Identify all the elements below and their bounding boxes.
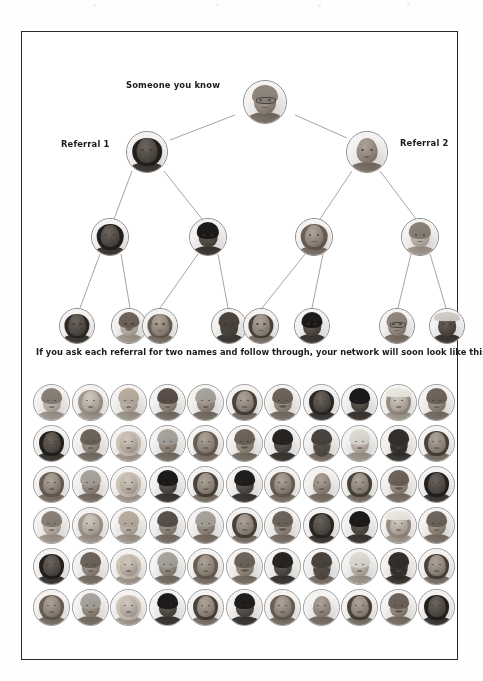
- portrait-grain: [227, 426, 262, 461]
- grid-portrait[interactable]: [187, 589, 224, 626]
- grid-portrait[interactable]: [226, 589, 263, 626]
- grid-portrait[interactable]: [33, 507, 70, 544]
- tree-node-leaf-7[interactable]: [379, 308, 415, 344]
- portrait-grain: [402, 219, 438, 255]
- grid-portrait[interactable]: [72, 384, 109, 421]
- grid-portrait[interactable]: [149, 425, 186, 462]
- grid-portrait[interactable]: [187, 466, 224, 503]
- grid-portrait[interactable]: [264, 466, 301, 503]
- grid-portrait[interactable]: [110, 507, 147, 544]
- tree-node-level3-1[interactable]: [91, 218, 129, 256]
- grid-portrait[interactable]: [264, 548, 301, 585]
- grid-portrait[interactable]: [72, 548, 109, 585]
- portrait-grain: [244, 309, 278, 343]
- grid-portrait[interactable]: [341, 425, 378, 462]
- grid-portrait[interactable]: [33, 425, 70, 462]
- grid-portrait[interactable]: [303, 466, 340, 503]
- portrait-grain: [111, 426, 146, 461]
- grid-portrait[interactable]: [418, 507, 455, 544]
- grid-portrait[interactable]: [226, 548, 263, 585]
- grid-portrait[interactable]: [110, 548, 147, 585]
- portrait-grain: [150, 385, 185, 420]
- grid-portrait[interactable]: [33, 589, 70, 626]
- tree-node-leaf-3[interactable]: [142, 308, 178, 344]
- tree-node-level3-3[interactable]: [295, 218, 333, 256]
- grid-portrait[interactable]: [264, 384, 301, 421]
- grid-portrait[interactable]: [33, 384, 70, 421]
- grid-portrait[interactable]: [72, 507, 109, 544]
- tree-node-level3-2[interactable]: [189, 218, 227, 256]
- grid-portrait[interactable]: [187, 384, 224, 421]
- tree-node-leaf-5[interactable]: [243, 308, 279, 344]
- portrait-grain: [342, 549, 377, 584]
- portrait-man-white-hair: [342, 549, 377, 584]
- portrait-grain: [296, 219, 332, 255]
- grid-portrait[interactable]: [418, 589, 455, 626]
- grid-portrait[interactable]: [264, 425, 301, 462]
- grid-portrait[interactable]: [303, 507, 340, 544]
- grid-portrait[interactable]: [72, 589, 109, 626]
- grid-portrait[interactable]: [33, 466, 70, 503]
- portrait-woman-dark-hair: [92, 219, 128, 255]
- grid-portrait[interactable]: [303, 548, 340, 585]
- grid-portrait[interactable]: [380, 507, 417, 544]
- grid-portrait[interactable]: [264, 507, 301, 544]
- grid-portrait[interactable]: [380, 548, 417, 585]
- grid-portrait[interactable]: [341, 466, 378, 503]
- tree-node-referral-1[interactable]: [126, 131, 168, 173]
- grid-portrait[interactable]: [418, 466, 455, 503]
- grid-portrait[interactable]: [380, 425, 417, 462]
- tree-node-root[interactable]: [243, 80, 287, 124]
- grid-portrait[interactable]: [149, 548, 186, 585]
- tree-node-referral-2[interactable]: [346, 131, 388, 173]
- portrait-woman-long-hair: [419, 426, 454, 461]
- grid-portrait[interactable]: [226, 425, 263, 462]
- portrait-man-beard: [304, 426, 339, 461]
- grid-portrait[interactable]: [33, 548, 70, 585]
- tree-node-leaf-6[interactable]: [294, 308, 330, 344]
- grid-portrait[interactable]: [149, 466, 186, 503]
- grid-portrait[interactable]: [149, 384, 186, 421]
- grid-portrait[interactable]: [110, 589, 147, 626]
- portrait-woman-smiling: [296, 219, 332, 255]
- grid-portrait[interactable]: [418, 548, 455, 585]
- grid-portrait[interactable]: [303, 384, 340, 421]
- grid-portrait[interactable]: [303, 425, 340, 462]
- tree-node-leaf-8[interactable]: [429, 308, 465, 344]
- grid-portrait[interactable]: [264, 589, 301, 626]
- portrait-woman-long-hair: [188, 467, 223, 502]
- grid-portrait[interactable]: [418, 384, 455, 421]
- grid-portrait[interactable]: [380, 466, 417, 503]
- grid-portrait[interactable]: [187, 425, 224, 462]
- tree-node-leaf-4[interactable]: [211, 308, 247, 344]
- grid-portrait[interactable]: [226, 384, 263, 421]
- portrait-man-grey: [188, 385, 223, 420]
- portrait-woman-hat: [381, 508, 416, 543]
- grid-portrait[interactable]: [187, 507, 224, 544]
- grid-portrait[interactable]: [226, 466, 263, 503]
- grid-portrait[interactable]: [418, 425, 455, 462]
- grid-portrait[interactable]: [149, 507, 186, 544]
- grid-portrait[interactable]: [341, 589, 378, 626]
- grid-portrait[interactable]: [149, 589, 186, 626]
- portrait-man-beard: [304, 549, 339, 584]
- grid-portrait[interactable]: [187, 548, 224, 585]
- grid-portrait[interactable]: [72, 425, 109, 462]
- grid-portrait[interactable]: [110, 384, 147, 421]
- grid-portrait[interactable]: [380, 384, 417, 421]
- tree-node-leaf-1[interactable]: [59, 308, 95, 344]
- grid-portrait[interactable]: [303, 589, 340, 626]
- illustration-frame: Someone you know Referral 1 Referral 2: [21, 31, 458, 660]
- grid-portrait[interactable]: [226, 507, 263, 544]
- tree-node-level3-4[interactable]: [401, 218, 439, 256]
- portrait-grain: [34, 467, 69, 502]
- grid-portrait[interactable]: [110, 466, 147, 503]
- grid-portrait[interactable]: [341, 384, 378, 421]
- grid-portrait[interactable]: [341, 548, 378, 585]
- grid-portrait[interactable]: [110, 425, 147, 462]
- grid-portrait[interactable]: [380, 589, 417, 626]
- grid-portrait[interactable]: [341, 507, 378, 544]
- grid-portrait[interactable]: [72, 466, 109, 503]
- portrait-grain: [188, 549, 223, 584]
- portrait-grain: [342, 590, 377, 625]
